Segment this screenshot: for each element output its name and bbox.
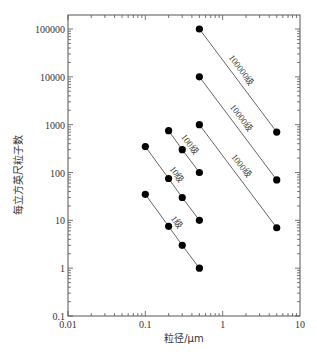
particle-count-chart: 0.010.1110 0.1110100100010000100000 1级10… <box>0 0 317 354</box>
data-point-marker <box>165 223 172 230</box>
data-point-marker <box>142 191 149 198</box>
x-tick-label: 10 <box>295 319 305 330</box>
data-point-marker <box>179 194 186 201</box>
data-point-marker <box>196 265 203 272</box>
y-tick-label: 1 <box>60 263 65 274</box>
series-line <box>145 146 199 220</box>
data-point-marker <box>196 217 203 224</box>
data-point-marker <box>165 127 172 134</box>
x-tick-label: 0.1 <box>139 319 152 330</box>
y-tick-label: 100000 <box>35 24 65 35</box>
data-point-marker <box>165 175 172 182</box>
data-point-marker <box>196 169 203 176</box>
y-tick-label: 100 <box>50 168 65 179</box>
data-point-marker <box>196 121 203 128</box>
data-series: 1级10级100级1000级10000级100000级 <box>142 25 281 271</box>
y-tick-label: 10 <box>55 215 65 226</box>
series-label: 1000级 <box>229 151 254 179</box>
data-point-marker <box>273 224 280 231</box>
x-tick-label: 1 <box>220 319 225 330</box>
series-0: 1级 <box>142 191 203 272</box>
y-tick-label: 0.1 <box>53 311 66 322</box>
y-tick-label: 1000 <box>45 120 65 131</box>
data-point-marker <box>196 25 203 32</box>
data-point-marker <box>142 143 149 150</box>
x-axis-title: 粒径/μm <box>164 332 203 344</box>
data-point-marker <box>179 242 186 249</box>
y-tick-label: 10000 <box>40 72 65 83</box>
y-axis-ticks: 0.1110100100010000100000 <box>35 24 300 322</box>
series-line <box>145 194 199 268</box>
y-axis-title: 每立方英尺粒子数 <box>12 135 24 215</box>
data-point-marker <box>273 128 280 135</box>
data-point-marker <box>196 73 203 80</box>
series-label: 100000级 <box>227 52 257 87</box>
series-line <box>199 125 276 228</box>
data-point-marker <box>273 176 280 183</box>
data-point-marker <box>179 146 186 153</box>
series-3: 1000级 <box>196 121 281 231</box>
series-label: 10000级 <box>228 102 256 134</box>
plot-border <box>68 15 300 316</box>
plot-frame <box>68 15 300 316</box>
